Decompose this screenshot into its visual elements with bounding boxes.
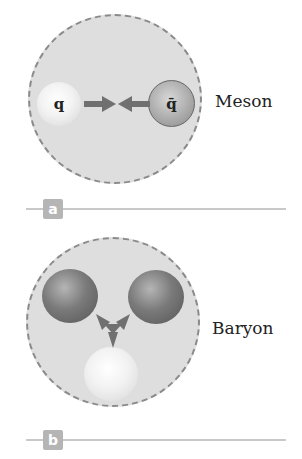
- panel-tag: a: [43, 199, 63, 219]
- arrow-left-icon: [116, 96, 150, 112]
- panel-tag: b: [43, 430, 63, 450]
- quark: q: [37, 82, 81, 126]
- divider: [26, 439, 286, 441]
- quark-symbol: q: [54, 95, 65, 113]
- converging-arrows-icon: [92, 310, 134, 354]
- panel-baryon: Baryon b: [0, 230, 302, 459]
- quark: [42, 269, 98, 323]
- antiquark: q̄: [148, 80, 195, 127]
- quark: [84, 347, 138, 401]
- quark: [128, 270, 184, 324]
- panel-meson: q q̄ Meson a: [0, 0, 302, 230]
- meson-label: Meson: [215, 91, 272, 111]
- antiquark-symbol: q̄: [166, 95, 177, 113]
- divider: [26, 208, 286, 210]
- arrow-right-icon: [84, 96, 118, 112]
- baryon-label: Baryon: [212, 318, 274, 338]
